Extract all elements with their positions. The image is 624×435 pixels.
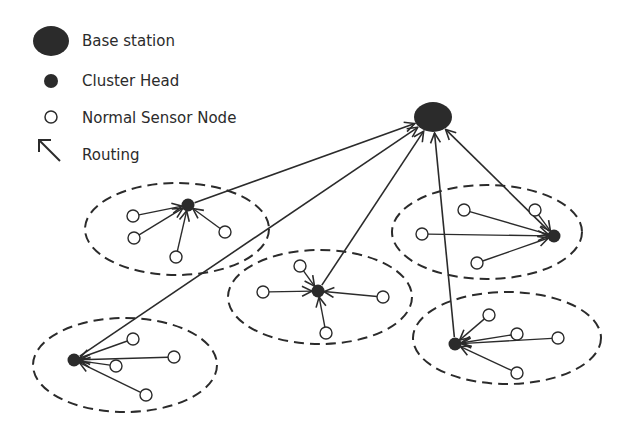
- wsn-cluster-diagram: Base station Cluster Head Normal Sensor …: [0, 0, 624, 435]
- sensor-node-icon: [511, 328, 523, 340]
- legend-item-routing: Routing: [39, 140, 140, 164]
- routing-link: [139, 208, 183, 235]
- legend-label: Cluster Head: [82, 72, 179, 90]
- sensor-node-icon: [458, 204, 470, 216]
- routing-link: [139, 206, 182, 215]
- routing-link: [460, 319, 485, 340]
- routing-link: [460, 347, 511, 371]
- routing-link: [324, 292, 377, 297]
- routing-link: [483, 238, 549, 261]
- routing-link: [428, 234, 548, 236]
- routing-link: [193, 209, 220, 229]
- routing-arrow-icon: [39, 140, 60, 161]
- legend-item-cluster-head: Cluster Head: [44, 72, 179, 90]
- sensor-node-icon: [170, 251, 182, 263]
- sensor-node-icon: [127, 210, 139, 222]
- sensor-node-icon: [110, 360, 122, 372]
- sensor-node-icon: [416, 228, 428, 240]
- routing-link: [304, 271, 315, 286]
- legend-item-base-station: Base station: [33, 26, 175, 56]
- sensor-node-icon: [511, 367, 523, 379]
- sensor-node-icon: [483, 309, 495, 321]
- cluster-head-icon: [449, 338, 462, 351]
- legend-label: Base station: [82, 32, 175, 50]
- routing-link-to-base: [322, 131, 424, 285]
- cluster-head-icon: [44, 74, 58, 88]
- sensor-node-icon: [294, 260, 306, 272]
- base-station-icon: [414, 102, 452, 132]
- cluster-head-icon: [312, 285, 325, 298]
- sensor-node-icon: [471, 257, 483, 269]
- cluster-head-icon: [548, 230, 561, 243]
- cluster-head-icon: [182, 199, 195, 212]
- sensor-node-icon: [168, 351, 180, 363]
- legend-item-sensor-node: Normal Sensor Node: [45, 109, 236, 127]
- sensor-node-icon: [127, 333, 139, 345]
- sensor-node-icon: [377, 291, 389, 303]
- routing-link: [269, 291, 312, 292]
- routing-link-to-base: [195, 124, 415, 203]
- legend-label: Normal Sensor Node: [82, 109, 236, 127]
- sensor-node-icon: [45, 111, 57, 123]
- legend: Base station Cluster Head Normal Sensor …: [33, 26, 236, 164]
- routing-link: [80, 341, 128, 358]
- cluster-boundary: [33, 318, 217, 412]
- sensor-node-icon: [552, 332, 564, 344]
- cluster-head-icon: [68, 354, 81, 367]
- sensor-node-icon: [128, 232, 140, 244]
- sensor-node-icon: [140, 389, 152, 401]
- cluster-boundary: [413, 292, 601, 384]
- routing-link: [319, 297, 325, 327]
- routing-link: [177, 211, 186, 251]
- sensor-node-icon: [219, 226, 231, 238]
- sensor-node-icon: [257, 286, 269, 298]
- base-station-icon: [33, 26, 69, 56]
- sensor-node-icon: [529, 204, 541, 216]
- legend-label: Routing: [82, 146, 140, 164]
- sensor-node-icon: [320, 327, 332, 339]
- routing-link: [80, 357, 168, 360]
